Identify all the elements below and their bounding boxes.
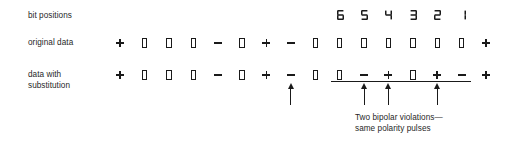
bit-position-label-2 bbox=[430, 8, 444, 22]
arrow-shaft bbox=[290, 88, 291, 105]
violation-caption: Two bipolar violations— same polarity pu… bbox=[355, 112, 443, 135]
row-label-data-with-substitution: data with substitution bbox=[28, 69, 70, 92]
bit-position-label-3 bbox=[406, 8, 420, 22]
arrow-shaft bbox=[437, 88, 438, 105]
violation-arrow-4 bbox=[433, 83, 442, 105]
bit-position-label-4 bbox=[381, 8, 395, 22]
arrow-shaft bbox=[388, 88, 389, 105]
bit-position-label-6 bbox=[333, 8, 347, 22]
violation-arrow-3 bbox=[384, 83, 393, 105]
bit-position-label-5 bbox=[357, 8, 371, 22]
row-label-bit-positions: bit positions bbox=[28, 10, 72, 21]
violation-arrow-1 bbox=[286, 83, 295, 105]
row-label-original-data: original data bbox=[28, 37, 73, 48]
bit-position-label-1 bbox=[455, 8, 469, 22]
violation-arrow-2 bbox=[360, 83, 369, 105]
substitution-underline bbox=[331, 81, 471, 82]
bipolar-substitution-diagram: bit positions original data data with su… bbox=[0, 0, 508, 143]
arrow-shaft bbox=[364, 88, 365, 105]
